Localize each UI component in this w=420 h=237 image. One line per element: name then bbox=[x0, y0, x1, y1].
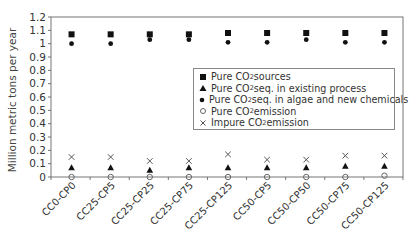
dot-marker bbox=[226, 40, 231, 45]
y-tick-label: 0.7 bbox=[29, 77, 46, 89]
legend-label-suffix: emission bbox=[266, 117, 309, 128]
legend-label: Pure CO bbox=[211, 71, 250, 82]
y-axis-label-text: Million metric tons per year bbox=[6, 28, 18, 173]
square-marker bbox=[108, 31, 114, 37]
x-marker bbox=[69, 154, 75, 160]
square-marker bbox=[303, 30, 309, 36]
triangle-marker bbox=[303, 164, 310, 170]
y-tick-label: 0.9 bbox=[29, 51, 46, 63]
y-tick-label: 1.1 bbox=[29, 24, 46, 36]
square-marker bbox=[264, 30, 270, 36]
x-marker bbox=[186, 158, 192, 164]
y-tick-label: 0.4 bbox=[29, 117, 46, 129]
legend-item-seq-algae: Pure CO2 seq. in algae and new chemicals bbox=[198, 94, 394, 106]
square-marker bbox=[69, 31, 75, 37]
triangle-marker bbox=[146, 167, 153, 173]
x-marker-icon bbox=[198, 118, 208, 128]
dot-marker bbox=[108, 41, 113, 46]
chart: 00.10.20.30.40.50.60.70.80.911.11.2CC0-C… bbox=[0, 0, 420, 237]
y-tick-label: 0.3 bbox=[29, 131, 46, 143]
y-axis-label: Million metric tons per year bbox=[4, 20, 20, 180]
dot-marker bbox=[304, 37, 309, 42]
square-marker bbox=[147, 31, 153, 37]
x-tick-label: CC0-CP0 bbox=[40, 180, 78, 218]
y-tick-label: 0.1 bbox=[29, 157, 46, 169]
dot-marker bbox=[265, 40, 270, 45]
open-circle-marker-icon bbox=[198, 106, 208, 116]
x-marker bbox=[343, 153, 349, 159]
y-tick-label: 1 bbox=[39, 37, 46, 49]
dot-marker bbox=[343, 40, 348, 45]
y-tick-label: 1.2 bbox=[29, 11, 46, 23]
triangle-marker bbox=[107, 164, 114, 170]
triangle-marker bbox=[264, 164, 271, 170]
square-marker bbox=[381, 30, 387, 36]
y-tick-label: 0.5 bbox=[29, 104, 46, 116]
y-tick-label: 0 bbox=[39, 171, 46, 183]
dot-marker bbox=[147, 37, 152, 42]
legend-label-suffix: seq. in existing process bbox=[254, 83, 366, 94]
triangle-marker bbox=[186, 164, 193, 170]
x-marker bbox=[225, 152, 231, 158]
open-circle-marker bbox=[382, 173, 387, 178]
legend-label-suffix: sources bbox=[254, 71, 291, 82]
triangle-marker-icon bbox=[198, 83, 208, 93]
triangle-marker bbox=[381, 163, 388, 169]
x-marker bbox=[147, 158, 153, 164]
y-tick-label: 0.2 bbox=[29, 144, 46, 156]
legend-item-pure-emission: Pure CO2 emission bbox=[198, 106, 394, 118]
x-marker bbox=[108, 154, 114, 160]
legend-label-suffix: seq. in algae and new chemicals bbox=[252, 94, 408, 105]
legend-label: Pure CO bbox=[209, 94, 248, 105]
legend-item-pure-co2-sources: Pure CO2 sources bbox=[198, 71, 394, 83]
square-marker-icon bbox=[198, 72, 208, 82]
dot-marker-icon bbox=[198, 95, 206, 105]
legend-item-impure-emission: Impure CO2 emission bbox=[198, 117, 394, 129]
dot-marker bbox=[186, 37, 191, 42]
square-marker bbox=[342, 30, 348, 36]
square-marker bbox=[225, 30, 231, 36]
legend-item-seq-existing: Pure CO2 seq. in existing process bbox=[198, 83, 394, 95]
square-marker bbox=[186, 31, 192, 37]
dot-marker bbox=[382, 40, 387, 45]
x-marker bbox=[303, 157, 309, 163]
x-marker bbox=[264, 157, 270, 163]
x-marker bbox=[382, 153, 388, 159]
dot-marker bbox=[69, 41, 74, 46]
triangle-marker bbox=[342, 163, 349, 169]
triangle-marker bbox=[225, 164, 232, 170]
legend-label: Pure CO bbox=[211, 83, 250, 94]
legend-label: Impure CO bbox=[211, 117, 262, 128]
legend-label-suffix: emission bbox=[254, 106, 297, 117]
y-tick-label: 0.8 bbox=[29, 64, 46, 76]
legend: Pure CO2 sources Pure CO2 seq. in existi… bbox=[193, 68, 395, 130]
legend-label: Pure CO bbox=[211, 106, 250, 117]
triangle-marker bbox=[68, 164, 75, 170]
y-tick-label: 0.6 bbox=[29, 91, 46, 103]
